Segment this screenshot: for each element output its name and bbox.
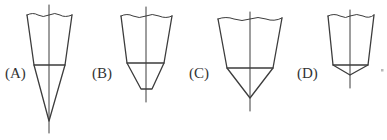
figure-d [328, 10, 374, 88]
trailing-mark [381, 69, 384, 72]
figure-d-outline [328, 15, 374, 75]
figure-a [27, 5, 72, 133]
label-c: (C) [189, 66, 209, 81]
label-d: (D) [297, 66, 318, 81]
figure-d-break-line [328, 15, 374, 18]
label-a: (A) [5, 66, 26, 81]
figure-c [218, 12, 282, 111]
label-b: (B) [92, 66, 112, 81]
diagram-canvas: (A) (B) (C) (D) [0, 0, 387, 140]
figure-b [121, 7, 172, 102]
